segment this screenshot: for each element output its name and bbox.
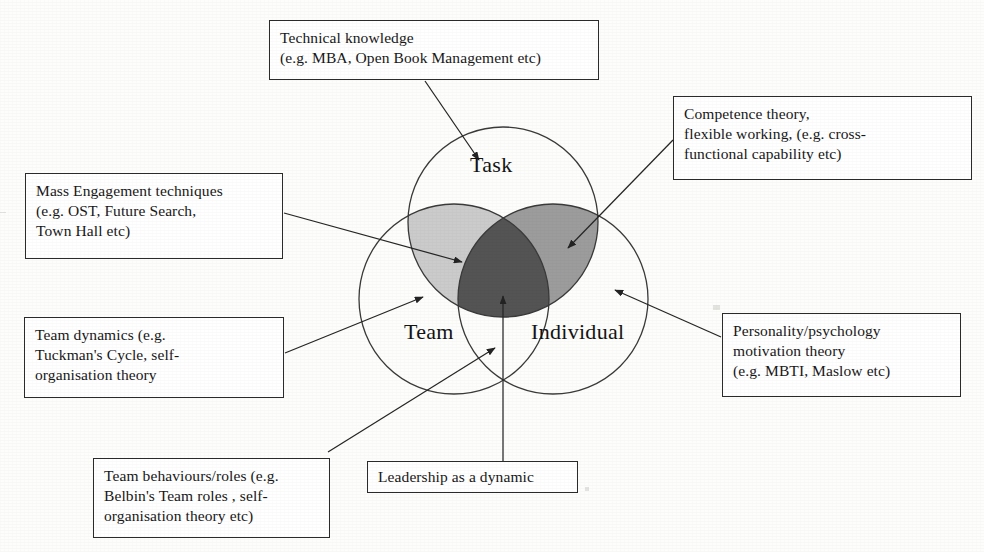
callout-team-behaviours[interactable]: Team behaviours/roles (e.g. Belbin's Tea… — [93, 458, 330, 538]
callout-technical-knowledge[interactable]: Technical knowledge (e.g. MBA, Open Book… — [269, 20, 599, 80]
callout-competence-theory[interactable]: Competence theory, flexible working, (e.… — [673, 96, 972, 180]
callout-personality-psychology[interactable]: Personality/psychology motivation theory… — [722, 313, 961, 397]
callout-leadership-dynamic[interactable]: Leadership as a dynamic — [367, 461, 578, 493]
circle-label-team: Team — [404, 319, 454, 345]
circle-label-individual: Individual — [531, 319, 624, 345]
technical-knowledge-arrow — [425, 81, 479, 160]
diagram-canvas: Task Team Individual Technical knowledge… — [0, 0, 984, 552]
circle-label-task: Task — [470, 152, 512, 178]
callout-team-dynamics[interactable]: Team dynamics (e.g. Tuckman's Cycle, sel… — [24, 317, 284, 398]
team-dynamics-arrow — [285, 297, 423, 353]
callout-mass-engagement[interactable]: Mass Engagement techniques (e.g. OST, Fu… — [25, 173, 283, 259]
personality-psychology-arrow — [615, 290, 721, 337]
team-behaviours-arrow — [328, 348, 495, 452]
